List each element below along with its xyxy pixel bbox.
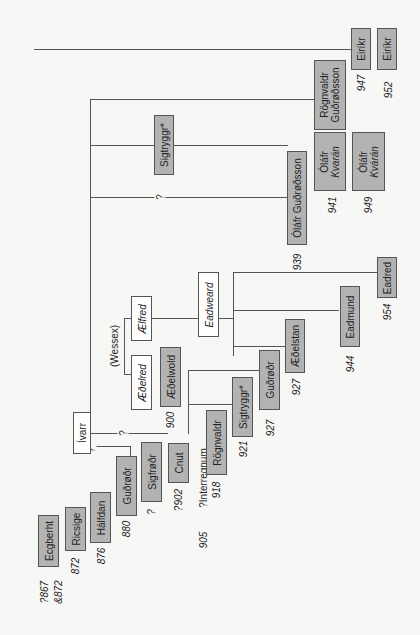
person-olafr-kvaran-949: ÓláfrKvárán [352, 132, 385, 191]
person-sigtryggr-2: Sigtryggr* [154, 115, 174, 175]
line-wessex-bracket [124, 318, 125, 374]
person-halfdan: Hálfdan [90, 492, 111, 543]
person-name: Ívarr [77, 423, 88, 443]
line-ivarr-sigtryggr2 [90, 145, 288, 146]
line-eadweard-trunk [233, 272, 234, 356]
person-olafr-kvaran-941: ÓláfrKvarán [314, 132, 346, 191]
line-ivarr-trunk [90, 99, 91, 426]
line-to-aedelstan [233, 346, 285, 347]
person-aedelstan: Æðelstan [285, 319, 305, 373]
person-aelfred: Ælfred [131, 296, 152, 341]
person-eadmund: Eadmund [340, 286, 360, 347]
person-aedelwold: Æðelwold [160, 347, 181, 407]
person-sigtryggr-921: Sigtryggr* [232, 377, 253, 437]
person-eirikr-952: Eiríkr [377, 28, 397, 70]
person-ricsige: Ricsige [65, 507, 86, 551]
person-rognvaldr-gudrodsson: RögnvaldrGuðrøðsson [314, 60, 346, 130]
person-rognvaldr: Rögnvaldr [206, 410, 227, 475]
line-eadweard-sons [218, 318, 234, 319]
person-eirikr-947: Eiríkr [351, 28, 371, 70]
person-eadred: Eadred [377, 257, 397, 298]
line-rognvaldr-trunk [188, 370, 189, 434]
line-to-eadmund [233, 310, 339, 311]
person-cnut: Cnut [168, 443, 189, 483]
line-eirikr-tail [270, 49, 351, 50]
person-ecgberht: Ecgberht [38, 515, 59, 567]
line-ivarr-top [90, 99, 320, 100]
person-olafr-gudrodsson: Óláfr Guðrøðsson [287, 151, 307, 245]
uncertain-marker-olafr: ? [155, 192, 166, 202]
person-gudrodr-880: Guðrøðr [116, 456, 137, 516]
line-aelfred-eadweard [151, 318, 199, 319]
line-ivarr-middle [90, 433, 168, 434]
person-aedelred: Æðelred [131, 355, 152, 410]
person-gudrodr-927: Guðrøðr [259, 350, 280, 410]
line-to-eadred [233, 272, 377, 273]
line-to-eirikr [34, 49, 270, 50]
person-ivarr: Ívarr [73, 412, 91, 454]
person-sigfrodr: Sigfrøðr [141, 442, 162, 502]
line-top-extend [290, 99, 314, 100]
uncertain-marker-middle: ? [118, 428, 129, 438]
line-to-sigtryggr1 [188, 404, 232, 405]
person-eadweard: Eadweard [198, 272, 219, 337]
line-ivarr-olafr [90, 197, 287, 198]
line-to-aedelwold-gudrodr [188, 370, 268, 371]
